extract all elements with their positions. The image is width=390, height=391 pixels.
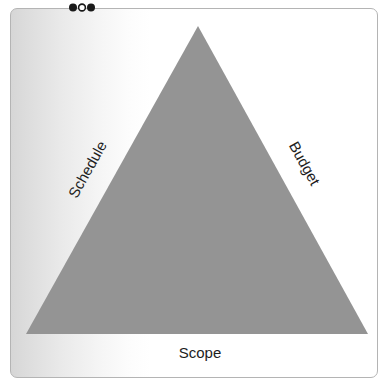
handle-dot-group[interactable]: [68, 2, 96, 13]
diagram-stage: Schedule Budget Scope: [0, 0, 390, 391]
handle-dot-middle[interactable]: [79, 4, 86, 11]
handle-dot-left[interactable]: [69, 4, 77, 12]
handle-dot-right[interactable]: [87, 4, 95, 12]
diagram-card: [10, 8, 378, 378]
